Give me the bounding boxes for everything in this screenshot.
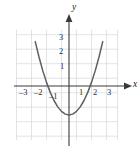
y-tick-label-pos2: 2 xyxy=(59,47,63,56)
y-axis-label: y xyxy=(72,3,76,13)
graph-figure: –3 –2 –1 1 2 3 1 2 3 y x xyxy=(0,0,140,146)
x-axis-label: x xyxy=(133,80,137,90)
x-tick-label-pos3: 3 xyxy=(107,88,111,97)
y-tick-label-pos3: 3 xyxy=(59,33,63,42)
y-axis xyxy=(66,14,73,146)
grid-lines xyxy=(17,30,118,140)
x-tick-label-pos2: 2 xyxy=(93,88,97,97)
x-tick-label-neg2: –2 xyxy=(34,88,43,97)
x-tick-label-neg3: –3 xyxy=(19,88,28,97)
x-tick-label-neg1: –1 xyxy=(49,92,58,101)
parabola-plot xyxy=(0,0,140,146)
x-tick-label-pos1: 1 xyxy=(79,88,83,97)
y-tick-label-pos1: 1 xyxy=(60,62,64,71)
